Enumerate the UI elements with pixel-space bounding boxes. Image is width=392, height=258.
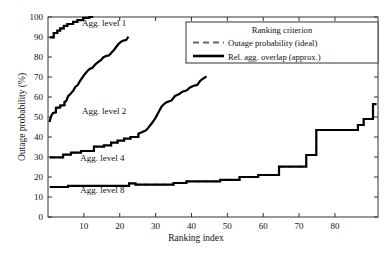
legend-label-ideal: Outage probability (ideal)	[228, 38, 317, 48]
x-tick-label: 20	[115, 221, 125, 231]
y-tick-label: 30	[34, 152, 44, 162]
x-tick-label: 80	[330, 221, 340, 231]
y-tick-label: 50	[34, 112, 44, 122]
curve-annotation: Agg. level 8	[80, 185, 125, 195]
chart-figure: 1020304050607080 0102030405060708090100 …	[0, 0, 392, 258]
x-tick-label: 40	[187, 221, 197, 231]
legend-label-approx: Rel. agg. overlap (approx.)	[228, 52, 321, 62]
y-tick-label: 10	[34, 192, 44, 202]
y-tick-label: 80	[34, 52, 44, 62]
y-tick-label: 60	[34, 92, 44, 102]
legend-title: Ranking criterion	[252, 25, 313, 35]
curve-annotation: Agg. level 2	[82, 106, 126, 116]
x-tick-label: 30	[151, 221, 161, 231]
curve-annotation: Agg. level 1	[82, 18, 126, 28]
x-tick-label: 50	[223, 221, 233, 231]
y-tick-label: 20	[34, 172, 44, 182]
x-tick-label: 70	[295, 221, 305, 231]
chart-legend: Ranking criterion Outage probability (id…	[186, 22, 378, 63]
curve-annotation: Agg. level 4	[80, 153, 125, 163]
x-tick-label: 10	[79, 221, 89, 231]
y-tick-label: 90	[34, 32, 44, 42]
y-tick-label: 100	[30, 12, 44, 22]
y-tick-label: 40	[34, 132, 44, 142]
y-tick-label: 70	[34, 72, 44, 82]
y-axis-label: Outage probability (%)	[17, 57, 27, 177]
y-tick-label: 0	[39, 212, 44, 222]
x-axis-label: Ranking index	[0, 233, 392, 243]
outage-probability-chart: 1020304050607080 0102030405060708090100 …	[0, 0, 392, 258]
x-tick-label: 60	[259, 221, 269, 231]
